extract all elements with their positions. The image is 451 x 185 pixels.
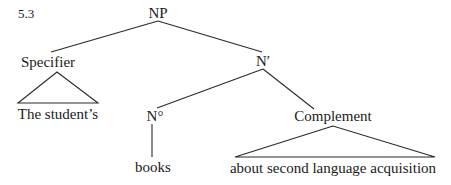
specifier-triangle [18,72,98,103]
node-complement: Complement [294,108,372,124]
node-n-bar: N′ [256,53,270,69]
edge-np-specifier [51,21,158,52]
leaf-complement-text: about second language acquisition [230,160,436,176]
leaf-head-noun: books [135,159,171,175]
figure-number: 5.3 [18,7,34,21]
leaf-specifier-text: The student’s [18,106,98,122]
edge-nbar-nzero [157,69,263,108]
complement-triangle [235,126,435,157]
node-n-zero: N° [147,108,164,124]
syntax-tree-diagram: 5.3 NP Specifier N′ The student’s N° Com… [0,0,451,185]
node-np: NP [148,5,167,21]
node-specifier: Specifier [21,54,75,70]
edge-nbar-complement [263,69,314,109]
tree-edges [0,0,451,185]
edge-np-nbar [158,21,262,52]
